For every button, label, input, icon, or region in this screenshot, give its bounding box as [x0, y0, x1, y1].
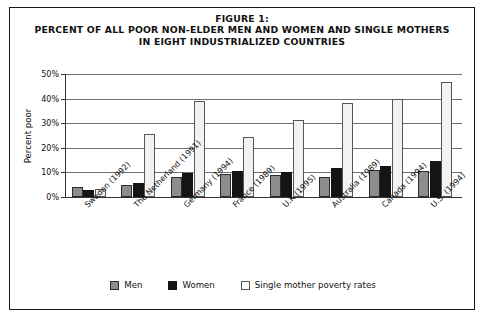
bar-men	[121, 185, 132, 197]
y-axis-tick-label: 40%	[41, 94, 59, 103]
bar-men	[220, 174, 231, 197]
y-axis-tick-label: 20%	[41, 143, 59, 152]
y-axis-tick-label: 10%	[41, 168, 59, 177]
bar-men	[72, 187, 83, 197]
y-axis-tick	[61, 172, 66, 173]
legend-item: Women	[168, 280, 214, 290]
y-axis-tick	[61, 197, 66, 198]
y-axis-tick	[61, 99, 66, 100]
figure-frame: FIGURE 1: PERCENT OF ALL POOR NON-ELDER …	[9, 7, 475, 310]
legend-item: Men	[110, 280, 142, 290]
bar-men	[319, 177, 330, 197]
y-axis-tick-label: 0%	[46, 193, 59, 202]
bar-group	[220, 74, 254, 197]
bar-group	[270, 74, 304, 197]
y-axis-tick-label: 50%	[41, 70, 59, 79]
bar-group	[319, 74, 353, 197]
y-axis-tick	[61, 148, 66, 149]
y-axis-title: Percent poor	[22, 74, 34, 197]
y-axis-tick	[61, 123, 66, 124]
legend-swatch-women	[168, 281, 177, 290]
bar-chart: Percent poor 0%10%20%30%40%50% Sweden (1…	[10, 8, 476, 311]
legend-label: Women	[182, 280, 214, 290]
legend-item: Single mother poverty rates	[241, 280, 376, 290]
legend-label: Men	[124, 280, 142, 290]
bar-group	[72, 74, 106, 197]
bar-group	[369, 74, 403, 197]
bar-men	[171, 177, 182, 197]
bar-men	[270, 175, 281, 197]
legend-swatch-men	[110, 281, 119, 290]
y-axis-tick-label: 30%	[41, 119, 59, 128]
chart-legend: MenWomenSingle mother poverty rates	[10, 280, 476, 290]
y-axis-title-label: Percent poor	[23, 108, 33, 163]
y-axis-tick	[61, 74, 66, 75]
bar-group	[418, 74, 452, 197]
bar-group	[171, 74, 205, 197]
legend-swatch-single	[241, 281, 250, 290]
plot-area: 0%10%20%30%40%50% Sweden (1992)The Nethe…	[65, 74, 462, 198]
bar-group	[121, 74, 155, 197]
legend-label: Single mother poverty rates	[255, 280, 376, 290]
